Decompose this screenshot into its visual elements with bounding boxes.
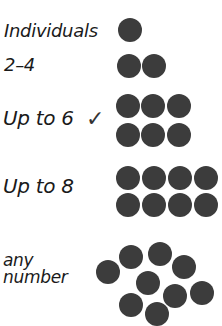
- person-dot: [190, 281, 214, 305]
- label-up-to-6: Up to 6: [3, 106, 74, 130]
- person-dot: [119, 293, 143, 317]
- person-dot: [116, 193, 140, 217]
- person-dot: [168, 193, 192, 217]
- person-dot: [116, 94, 140, 118]
- person-dot: [172, 255, 196, 279]
- label-up-to-8: Up to 8: [3, 174, 74, 198]
- person-dot: [167, 94, 191, 118]
- person-dot: [142, 54, 166, 78]
- person-dot: [116, 123, 140, 147]
- label-individuals: Individuals: [4, 20, 98, 41]
- person-dot: [145, 302, 169, 326]
- person-dot: [167, 123, 191, 147]
- person-dot: [96, 260, 120, 284]
- person-dot: [163, 284, 187, 308]
- label-2-4: 2–4: [4, 54, 35, 75]
- person-dot: [141, 94, 165, 118]
- person-dot: [118, 18, 142, 42]
- person-dot: [148, 242, 172, 266]
- person-dot: [194, 193, 218, 217]
- person-dot: [136, 271, 160, 295]
- label-number: number: [3, 267, 68, 287]
- person-dot: [119, 245, 143, 269]
- person-dot: [116, 166, 140, 190]
- checkmark-icon: ✓: [86, 108, 104, 130]
- person-dot: [194, 166, 218, 190]
- person-dot: [142, 193, 166, 217]
- person-dot: [142, 166, 166, 190]
- person-dot: [117, 54, 141, 78]
- person-dot: [168, 166, 192, 190]
- person-dot: [141, 123, 165, 147]
